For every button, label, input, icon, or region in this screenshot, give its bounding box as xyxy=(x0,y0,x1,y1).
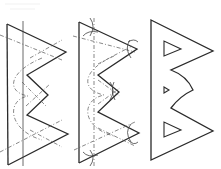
figure-2-dashed-curve xyxy=(88,56,114,136)
background-artifacts xyxy=(5,4,40,9)
figure-2-dashed-diagonals xyxy=(73,36,135,150)
figure-1-dashed-diagonals xyxy=(0,35,62,152)
middle-triangle-hole xyxy=(164,87,169,93)
diagram-canvas xyxy=(0,0,221,169)
bottom-triangle-hole xyxy=(164,122,181,137)
top-triangle-hole xyxy=(164,41,181,56)
figure-1-dashed-curve xyxy=(14,58,42,140)
figure-2-arc-marks xyxy=(83,18,138,166)
figure-step-1 xyxy=(0,21,68,166)
figure-step-3 xyxy=(151,20,213,160)
figure-3-outline xyxy=(151,20,213,160)
figure-1-left-edge xyxy=(7,24,8,165)
figure-step-2 xyxy=(73,18,139,166)
